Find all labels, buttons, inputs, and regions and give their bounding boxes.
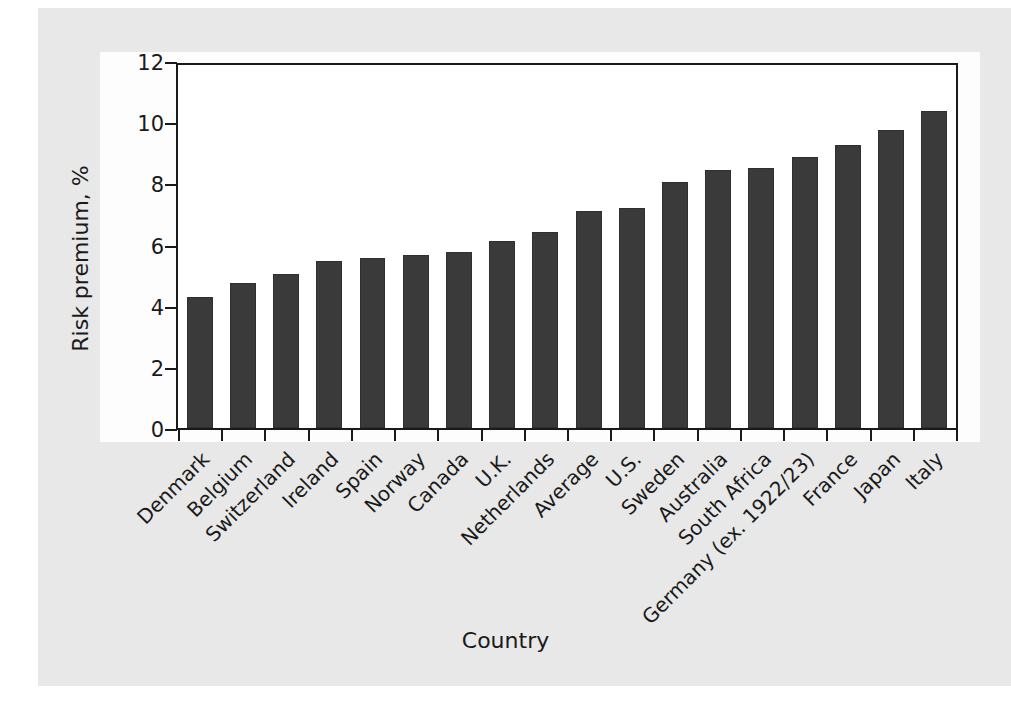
y-axis-tick-label: 4	[124, 297, 164, 318]
bar-slot	[264, 65, 307, 428]
bar	[532, 232, 558, 428]
y-axis-tick-label: 8	[124, 175, 164, 196]
bar-slot	[437, 65, 480, 428]
x-axis-tick-mark	[178, 430, 180, 441]
bar-slot	[697, 65, 740, 428]
bar-slot	[913, 65, 956, 428]
y-axis-title: Risk premium, %	[68, 149, 93, 369]
bar	[662, 182, 688, 428]
y-axis-tick-label: 6	[124, 236, 164, 257]
bar-slot	[308, 65, 351, 428]
y-axis-tick-label: 2	[124, 358, 164, 379]
y-axis-tick-mark	[165, 246, 177, 248]
y-axis-tick-mark	[165, 429, 177, 431]
x-axis-title: Country	[0, 628, 1011, 653]
y-axis-tick-label: 0	[124, 420, 164, 441]
bar-slot	[221, 65, 264, 428]
bar-slot	[481, 65, 524, 428]
bar-slot	[178, 65, 221, 428]
bar-slot	[783, 65, 826, 428]
bar	[792, 157, 818, 428]
bar-slot	[567, 65, 610, 428]
y-axis-tick-label: 10	[124, 114, 164, 135]
y-axis-tick-mark	[165, 368, 177, 370]
bar	[705, 170, 731, 428]
bar	[921, 111, 947, 428]
bar	[403, 255, 429, 428]
y-axis-tick-mark	[165, 62, 177, 64]
bar-slot	[653, 65, 696, 428]
y-axis-tick-label: 12	[124, 53, 164, 74]
y-axis-tick-mark	[165, 123, 177, 125]
bar	[187, 297, 213, 429]
bar-slot	[524, 65, 567, 428]
bar	[748, 168, 774, 428]
y-axis-tick-labels: 024681012	[118, 0, 164, 707]
bar-slot	[740, 65, 783, 428]
bar-chart-figure: 024681012 DenmarkBelgiumSwitzerlandIrela…	[0, 0, 1011, 707]
y-axis-tick-mark	[165, 184, 177, 186]
y-axis-tick-mark	[165, 307, 177, 309]
bar-slot	[394, 65, 437, 428]
